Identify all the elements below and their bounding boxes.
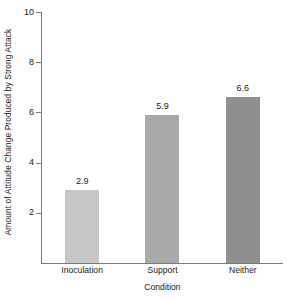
y-axis-tick-label: 10	[14, 8, 34, 17]
y-axis-tick	[36, 12, 41, 13]
x-axis-title: Condition	[42, 283, 283, 292]
plot-area: 2.95.96.6	[42, 12, 283, 263]
bar-chart: Amount of Attitude Change Produced by St…	[0, 0, 287, 299]
y-axis-title: Amount of Attitude Change Produced by St…	[0, 0, 16, 263]
bar-group: 2.9	[42, 12, 122, 263]
y-axis-tick-label: 6	[14, 108, 34, 117]
bar-value-label: 2.9	[76, 177, 89, 186]
y-axis-tick	[36, 163, 41, 164]
bar-group: 5.9	[122, 12, 202, 263]
bar[interactable]	[226, 97, 260, 263]
x-axis-category-label: Support	[122, 266, 202, 275]
bar[interactable]	[65, 190, 99, 263]
y-axis-title-text: Amount of Attitude Change Produced by St…	[3, 28, 13, 235]
bar-value-label: 5.9	[156, 102, 169, 111]
y-axis-tick-label: 4	[14, 158, 34, 167]
bar-group: 6.6	[203, 12, 283, 263]
y-axis-tick	[36, 112, 41, 113]
x-axis-category-label: Inoculation	[42, 266, 122, 275]
y-axis-tick	[36, 62, 41, 63]
x-axis-line	[41, 263, 283, 264]
bar-value-label: 6.6	[237, 84, 250, 93]
y-axis-tick-label: 8	[14, 58, 34, 67]
x-axis-category-label: Neither	[203, 266, 283, 275]
y-axis-tick	[36, 213, 41, 214]
bar[interactable]	[145, 115, 179, 263]
y-axis-tick-label: 2	[14, 208, 34, 217]
